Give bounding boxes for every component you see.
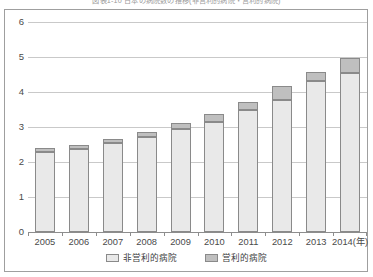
bar-segment-nonprofit[interactable] (340, 73, 360, 232)
bar-segment-profit[interactable] (306, 72, 326, 81)
y-tick-label: 6 (8, 17, 24, 27)
y-tick-label: 0 (8, 227, 24, 237)
bar-segment-profit[interactable] (69, 145, 89, 149)
bar-segment-profit[interactable] (204, 114, 224, 122)
figure-title: 図表1-10 日本の病院数の推移(非営利的病院・営利的病院) (0, 0, 373, 5)
bar-group[interactable] (69, 22, 89, 232)
bar-segment-nonprofit[interactable] (69, 149, 89, 232)
x-tick-label: 2014(年) (332, 237, 368, 248)
x-tick-label: 2005 (35, 237, 56, 248)
bar-segment-nonprofit[interactable] (204, 122, 224, 232)
x-tick-label: 2011 (238, 237, 258, 248)
x-tick (62, 232, 63, 236)
x-tick-label: 2007 (102, 237, 123, 248)
x-tick (130, 232, 131, 236)
x-tick (231, 232, 232, 236)
bar-segment-profit[interactable] (35, 148, 55, 152)
legend-swatch-profit (205, 254, 218, 262)
bar-group[interactable] (238, 22, 258, 232)
legend-label: 営利的病院 (222, 253, 267, 263)
bar-segment-nonprofit[interactable] (306, 81, 326, 232)
x-tick-label: 2008 (136, 237, 157, 248)
bar-segment-nonprofit[interactable] (35, 152, 55, 232)
legend-item[interactable]: 非営利的病院 (106, 253, 177, 263)
x-tick (28, 232, 29, 236)
x-tick (366, 232, 367, 236)
x-tick (164, 232, 165, 236)
bar-segment-nonprofit[interactable] (137, 137, 157, 232)
y-tick-label: 4 (8, 87, 24, 97)
bar-segment-profit[interactable] (171, 123, 191, 129)
y-tick-label: 2 (8, 157, 24, 167)
x-tick (265, 232, 266, 236)
x-tick (198, 232, 199, 236)
bar-segment-profit[interactable] (103, 139, 123, 143)
bar-segment-profit[interactable] (137, 132, 157, 137)
y-axis-labels: 0123456 (4, 22, 24, 232)
x-tick-label: 2013 (306, 237, 327, 248)
x-tick-label: 2012 (272, 237, 293, 248)
x-tick (333, 232, 334, 236)
x-tick-label: 2009 (170, 237, 191, 248)
chart-legend: 非営利的病院営利的病院 (4, 250, 368, 266)
bar-segment-profit[interactable] (340, 58, 360, 73)
bar-segment-nonprofit[interactable] (272, 100, 292, 232)
x-tick-label: 2010 (204, 237, 225, 248)
bar-segment-nonprofit[interactable] (238, 110, 258, 232)
chart-figure: 図表1-10 日本の病院数の推移(非営利的病院・営利的病院) 0123456 2… (0, 0, 373, 277)
x-axis: 2005200620072008200920102011201220132014… (28, 232, 367, 250)
bar-group[interactable] (171, 22, 191, 232)
bar-group[interactable] (204, 22, 224, 232)
x-tick (299, 232, 300, 236)
x-tick-label: 2006 (69, 237, 90, 248)
bar-group[interactable] (35, 22, 55, 232)
bar-segment-profit[interactable] (272, 86, 292, 100)
bar-segment-profit[interactable] (238, 102, 258, 110)
bar-segment-nonprofit[interactable] (103, 143, 123, 232)
bar-group[interactable] (137, 22, 157, 232)
legend-item[interactable]: 営利的病院 (205, 253, 267, 263)
y-tick-label: 1 (8, 192, 24, 202)
legend-swatch-nonprofit (106, 254, 119, 262)
y-tick-label: 3 (8, 122, 24, 132)
bar-group[interactable] (103, 22, 123, 232)
x-tick (96, 232, 97, 236)
bar-segment-nonprofit[interactable] (171, 129, 191, 232)
bar-group[interactable] (306, 22, 326, 232)
bars-layer (28, 22, 367, 232)
bar-group[interactable] (340, 22, 360, 232)
bar-group[interactable] (272, 22, 292, 232)
y-tick-label: 5 (8, 52, 24, 62)
legend-label: 非営利的病院 (123, 253, 177, 263)
